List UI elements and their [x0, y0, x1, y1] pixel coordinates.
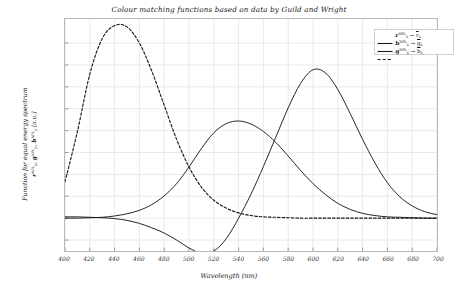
x-axis-tick-label: 460 [133, 255, 144, 262]
legend-line-sample [377, 48, 393, 55]
x-axis-tick-label: 580 [283, 255, 294, 262]
x-axis-tick-label: 540 [233, 255, 244, 262]
x-axis-tick-label: 640 [357, 255, 368, 262]
chart-title: Colour matching functions based on data … [0, 5, 458, 14]
x-axis-tick-label: 480 [158, 255, 169, 262]
legend-label: ₓgNPLλ → bλ [394, 48, 423, 55]
chart-legend: ₓrNPLλ → rλₓbNPLλ → gλₓgNPLλ → bλ [374, 29, 454, 55]
x-axis-tick-label: 680 [407, 255, 418, 262]
legend-label: ₓrNPLλ → rλ [394, 32, 421, 39]
x-axis-tick-label: 500 [183, 255, 194, 262]
legend-b[interactable]: ₓgNPLλ → bλ [377, 48, 450, 55]
y-axis-label-line1: Function for equal energy spectrum [21, 87, 28, 200]
figure-canvas: Colour matching functions based on data … [0, 0, 458, 296]
x-axis-tick-label: 620 [333, 255, 344, 262]
legend-r[interactable]: ₓrNPLλ → rλ [377, 32, 450, 39]
legend-label: ₓbNPLλ → gλ [394, 40, 423, 47]
legend-line-sample [377, 32, 393, 39]
x-axis-label: Wavelength (nm) [0, 272, 458, 280]
x-axis-tick-label: 440 [108, 255, 119, 262]
x-axis-tick-label: 520 [208, 255, 219, 262]
legend-g[interactable]: ₓbNPLλ → gλ [377, 40, 450, 47]
x-axis-tick-label: 700 [432, 255, 443, 262]
y-axis-label: Function for equal energy spectrum rNPLλ… [21, 44, 39, 244]
x-axis-tick-label: 420 [83, 255, 94, 262]
data-series-r-bar [65, 69, 437, 251]
y-axis-label-line2: rNPLλ, gNPLλ, bNPLλ [a.u.] [31, 112, 37, 177]
x-axis-tick-label: 400 [58, 255, 69, 262]
x-axis-tick-label: 660 [382, 255, 393, 262]
x-axis-tick-label: 600 [308, 255, 319, 262]
x-axis-tick-label: 560 [258, 255, 269, 262]
legend-line-sample [377, 40, 393, 47]
data-series-g-bar [65, 121, 437, 218]
